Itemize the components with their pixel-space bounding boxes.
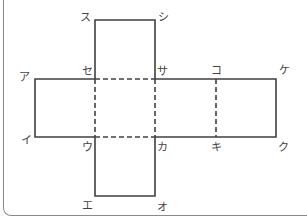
vertex-label-ka: カ [157,142,168,153]
vertex-label-ko: コ [211,65,222,76]
vertex-label-ke: ケ [279,65,290,76]
left-face-outline [35,79,95,137]
vertex-label-ku: ク [278,142,289,153]
vertex-label-a: ア [19,72,30,83]
bottom-face-outline [95,137,155,196]
vertex-label-i: イ [21,135,32,146]
vertex-label-sa: サ [157,66,168,77]
vertex-label-u: ウ [82,142,93,153]
vertex-label-o: オ [157,202,168,213]
vertex-label-su: ス [80,12,91,23]
vertex-label-e: エ [82,200,93,211]
vertex-label-shi: シ [158,12,169,23]
top-face-outline [95,20,155,79]
vertex-label-se: セ [82,66,93,77]
fold-lines [95,79,216,137]
cube-net-figure [0,0,307,220]
vertex-label-ki: キ [211,142,222,153]
